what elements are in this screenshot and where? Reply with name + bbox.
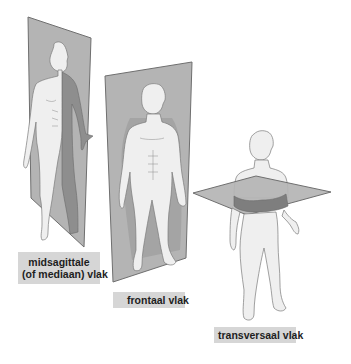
sagittal-label-line1: midsagittale xyxy=(22,256,96,268)
sagittal-plane-label: midsagittale (of mediaan) vlak xyxy=(18,252,100,284)
transversal-plane-label: transversaal vlak xyxy=(214,327,296,343)
transversal-figure xyxy=(193,131,331,320)
transversal-right-arm xyxy=(282,210,299,234)
sagittal-figure xyxy=(24,17,93,247)
body-planes-illustration xyxy=(0,0,351,364)
transversal-head xyxy=(250,131,274,160)
frontal-plane-label: frontaal vlak xyxy=(113,292,185,308)
transversal-left-arm xyxy=(230,208,240,250)
frontal-figure xyxy=(105,62,192,282)
transversal-lower-body xyxy=(240,212,286,320)
sagittal-label-line2: (of mediaan) vlak xyxy=(22,268,96,280)
